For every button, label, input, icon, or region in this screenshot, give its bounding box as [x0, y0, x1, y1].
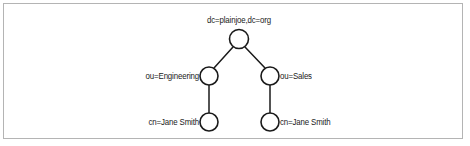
node-jane-engineering-circle [200, 113, 218, 131]
node-sales-circle [261, 67, 279, 85]
node-jane-sales-label: cn=Jane Smith [280, 117, 393, 127]
node-jane-sales-circle [261, 113, 279, 131]
edge-root-to-sales [245, 47, 265, 68]
node-engineering-label: ou=Engineering [106, 71, 199, 81]
node-engineering-circle [200, 67, 218, 85]
node-root-label: dc=plainjoe,dc=org [193, 15, 285, 25]
node-root-circle [230, 30, 249, 49]
node-sales-label: ou=Sales [280, 71, 393, 81]
edge-root-to-engineering [214, 47, 233, 68]
node-jane-engineering-label: cn=Jane Smith [106, 117, 199, 127]
